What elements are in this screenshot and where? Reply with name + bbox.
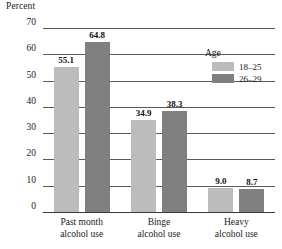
bar — [131, 120, 156, 212]
bar-value-label: 34.9 — [125, 108, 162, 118]
gridline — [43, 212, 275, 213]
x-axis-category-label-line: Heavy — [190, 217, 282, 229]
y-axis-title: Percent — [6, 1, 35, 11]
y-axis-tick-label: 20 — [0, 148, 36, 158]
y-axis-tick-label: 40 — [0, 96, 36, 106]
bar-value-label: 64.8 — [79, 30, 116, 40]
y-axis-tick-label: 70 — [0, 17, 36, 27]
legend: Age 18–2526–29 — [205, 48, 279, 84]
y-axis-tick-label: 0 — [0, 201, 36, 211]
legend-entries: 18–2526–29 — [205, 61, 279, 84]
bar-value-label: 38.3 — [156, 99, 193, 109]
y-axis-tick-label: 10 — [0, 175, 36, 185]
y-axis-tick-label: 30 — [0, 122, 36, 132]
y-axis-tick-label: 50 — [0, 70, 36, 80]
legend-swatch — [212, 74, 234, 83]
bar — [239, 189, 264, 212]
legend-entry[interactable]: 26–29 — [212, 73, 279, 84]
legend-swatch — [212, 62, 234, 71]
bar — [162, 111, 187, 212]
x-axis-category-label: Heavyalcohol use — [190, 217, 282, 240]
legend-label: 18–25 — [239, 62, 262, 72]
bar — [85, 42, 110, 212]
x-axis-category-label-line: alcohol use — [190, 229, 282, 241]
bar-value-label: 55.1 — [48, 55, 85, 65]
bar-chart: Percent 706050403020100 Past monthalcoho… — [0, 0, 282, 249]
legend-label: 26–29 — [239, 74, 262, 84]
bar — [54, 67, 79, 212]
legend-entry[interactable]: 18–25 — [212, 61, 279, 72]
legend-title: Age — [205, 48, 279, 59]
bar-value-label: 8.7 — [233, 177, 270, 187]
bar — [208, 188, 233, 212]
y-axis-tick-label: 60 — [0, 43, 36, 53]
